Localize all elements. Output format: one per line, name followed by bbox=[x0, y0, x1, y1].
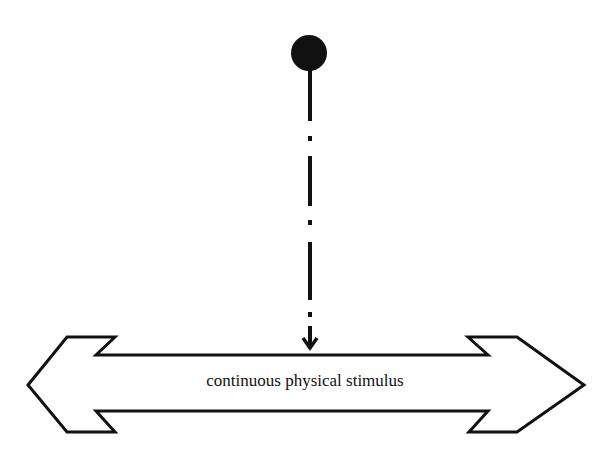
source-node-icon bbox=[291, 35, 327, 71]
stimulus-label: continuous physical stimulus bbox=[0, 371, 610, 391]
